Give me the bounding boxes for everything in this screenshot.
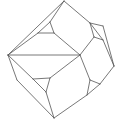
edge-tri_ll_b-center: [50, 55, 80, 78]
edge-tri_ul_c-tri_ul_a: [50, 22, 54, 33]
polyhedron-drawing: [0, 0, 121, 120]
edge-tri_ur_c-right: [103, 40, 114, 66]
edge-right_upper-right: [103, 26, 114, 66]
edge-tri_ll_b-tri_ll_c: [46, 78, 50, 92]
edge-top-tri_ur_a: [64, 1, 90, 23]
edge-tri_lr_c-bottom: [54, 95, 87, 118]
edge-tri_ul_b-left: [8, 33, 38, 55]
edge-tri_lr_b-right: [100, 66, 114, 84]
edge-top-left: [8, 1, 64, 55]
edge-tri_ll_c-tri_ll_a: [33, 79, 46, 92]
edge-tri_lr_a-tri_lr_b: [90, 80, 100, 84]
edge-tri_ul_c-center: [54, 33, 80, 55]
edge-left-tri_ll_a: [8, 55, 33, 79]
edge-tri_ur_b-center: [80, 37, 94, 55]
polyhedron-edges: [8, 1, 114, 118]
edge-tri_ul_a-tri_ul_b: [38, 22, 50, 33]
edge-top-tri_ul_a: [50, 1, 64, 22]
edge-tri_ll_a-tri_ll_b: [33, 78, 50, 79]
edge-tri_lr_a-center: [80, 55, 90, 80]
edge-left-left_lower: [8, 55, 17, 80]
